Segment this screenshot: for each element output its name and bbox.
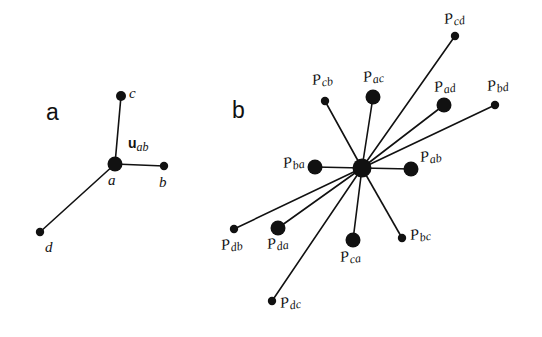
node-label-P_bc: Pbc (409, 225, 432, 243)
node-label-P_ab: Pab (419, 147, 442, 165)
p-subscript: ac (372, 71, 385, 87)
edges-layer (40, 36, 495, 301)
p-subscript: bd (496, 80, 510, 96)
p-subscript: cb (321, 74, 334, 90)
node-b (160, 162, 168, 170)
node-P_db (230, 225, 238, 233)
node-label-P_ad: Pad (433, 77, 456, 95)
edge-b-P_db (234, 168, 362, 229)
vector-symbol: u (128, 135, 137, 151)
panel-label-b: b (232, 99, 245, 122)
p-subscript: dc (289, 297, 302, 313)
panel-label-a: a (46, 101, 59, 124)
node-P_dc (268, 297, 276, 305)
node-hub-b (353, 159, 372, 178)
node-P_ad (437, 98, 452, 113)
edge-a-c (115, 96, 121, 164)
node-d (36, 228, 44, 236)
edge-b-P_ac (362, 97, 373, 168)
edge-b-P_da (278, 168, 362, 228)
p-subscript: bc (419, 229, 432, 245)
node-c (116, 91, 126, 101)
node-P_cb (321, 97, 329, 105)
p-subscript: ba (292, 157, 306, 173)
node-label-P_db: Pdb (220, 235, 243, 253)
vector-subscript: ab (137, 140, 149, 154)
node-P_bc (398, 234, 406, 242)
p-subscript: ab (429, 151, 443, 167)
figure-graphics (0, 0, 542, 337)
node-label-P_ba: Pba (282, 153, 305, 171)
node-label-P_cb: Pcb (311, 70, 334, 88)
p-subscript: cd (453, 13, 466, 29)
node-P_bd (491, 101, 499, 109)
node-label-b: b (159, 175, 167, 190)
node-label-P_cd: Pcd (443, 9, 466, 27)
node-label-P_bd: Pbd (486, 76, 509, 94)
node-P_ca (346, 233, 361, 248)
node-label-d: d (45, 240, 53, 255)
p-subscript: db (230, 239, 244, 255)
node-label-a: a (108, 173, 116, 188)
node-a (108, 157, 123, 172)
p-subscript: ca (349, 251, 362, 267)
node-label-P_ca: Pca (339, 247, 362, 265)
node-label-c: c (129, 86, 136, 101)
edge-a-d (40, 164, 115, 232)
node-P_ac (366, 90, 381, 105)
p-subscript: ad (443, 81, 457, 97)
edge-b-P_bc (362, 168, 402, 238)
p-subscript: da (276, 238, 290, 254)
node-P_ba (308, 160, 323, 175)
node-label-P_da: Pda (266, 234, 289, 252)
node-P_ab (404, 162, 419, 177)
edge-b-P_cb (325, 101, 362, 168)
node-P_cd (451, 32, 459, 40)
vector-label-u-ab: uab (128, 136, 149, 151)
node-label-P_dc: Pdc (279, 293, 302, 311)
figure-canvas: a b a uab cbdPcdPcbPacPadPbdPabPbaPbcPca… (0, 0, 542, 337)
node-label-P_ac: Pac (362, 67, 385, 85)
